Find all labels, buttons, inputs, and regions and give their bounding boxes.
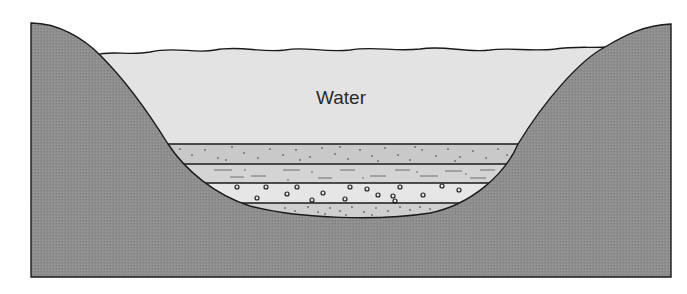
water-label: Water <box>316 87 366 109</box>
silt-layer <box>150 164 550 183</box>
fine-sand-layer <box>150 144 550 164</box>
lake-cross-section-diagram <box>0 0 687 294</box>
